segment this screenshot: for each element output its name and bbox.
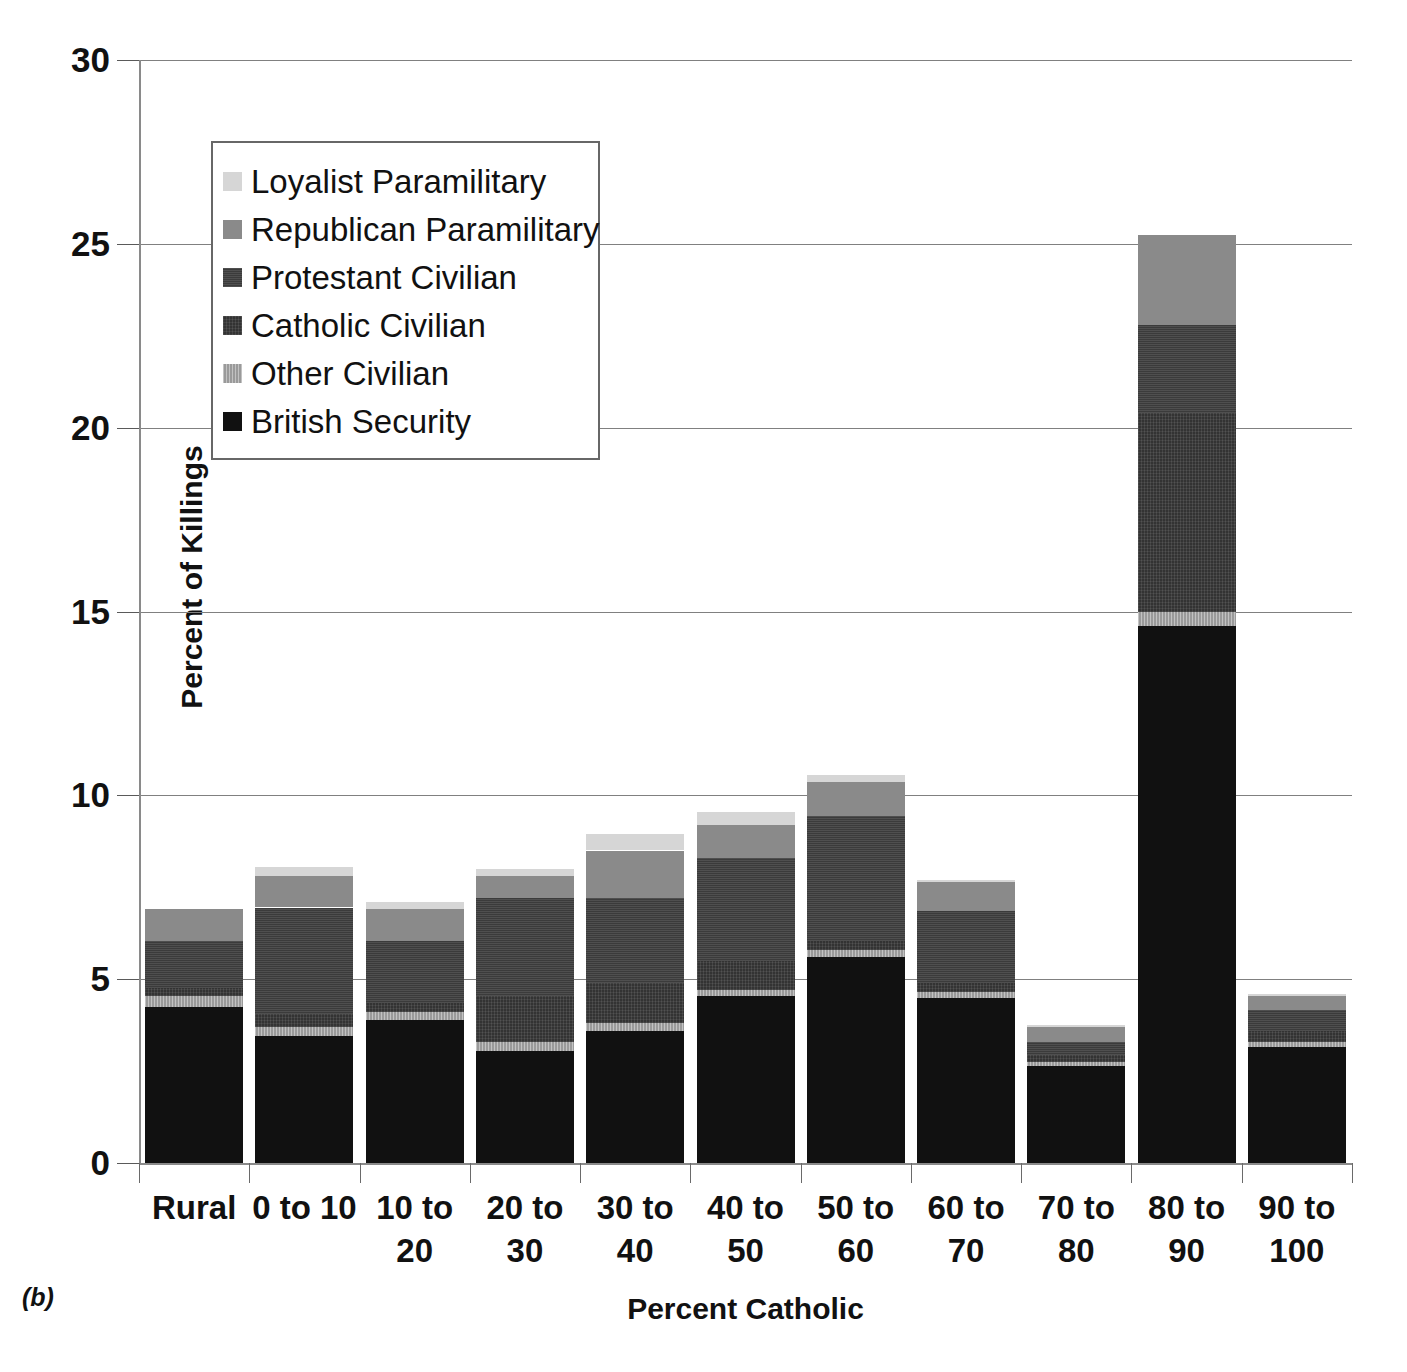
bar-segment[interactable] <box>807 775 905 782</box>
british-swatch <box>223 412 242 431</box>
bar-segment[interactable] <box>917 882 1015 911</box>
x-tick <box>360 1163 361 1183</box>
bar-segment[interactable] <box>366 902 464 909</box>
bar-segment[interactable] <box>1027 1066 1125 1163</box>
bar-segment[interactable] <box>145 988 243 995</box>
bar-segment[interactable] <box>476 1042 574 1051</box>
bar-segment[interactable] <box>1138 235 1236 325</box>
bar-segment[interactable] <box>1248 1031 1346 1042</box>
bar-segment[interactable] <box>1027 1042 1125 1055</box>
x-axis-line <box>139 1163 1352 1165</box>
y-tick-15 <box>117 612 139 613</box>
y-tick-label-10: 10 <box>71 775 110 815</box>
bar-segment[interactable] <box>586 851 684 899</box>
bar-segment[interactable] <box>476 876 574 898</box>
bar-segment[interactable] <box>145 941 243 989</box>
bar-segment[interactable] <box>1027 1027 1125 1042</box>
x-tick-label: 90 to100 <box>1233 1186 1361 1272</box>
bar-segment[interactable] <box>476 898 574 995</box>
bar-segment[interactable] <box>917 992 1015 998</box>
legend-label: Catholic Civilian <box>251 309 486 342</box>
y-tick-10 <box>117 795 139 796</box>
y-tick-0 <box>117 1163 139 1164</box>
x-tick-label: Rural <box>130 1186 258 1229</box>
bar-segment[interactable] <box>1138 413 1236 612</box>
bar-segment[interactable] <box>917 911 1015 983</box>
bar-group <box>586 60 684 1163</box>
bar-segment[interactable] <box>1027 1062 1125 1066</box>
legend-label: British Security <box>251 405 471 438</box>
x-tick-label: 20 to30 <box>461 1186 589 1272</box>
loyalist-swatch <box>223 172 242 191</box>
bar-segment[interactable] <box>476 996 574 1042</box>
bar-segment[interactable] <box>1248 1047 1346 1163</box>
bar-segment[interactable] <box>145 996 243 1007</box>
bar-segment[interactable] <box>697 858 795 961</box>
legend-item-0[interactable]: Loyalist Paramilitary <box>223 157 598 205</box>
bar-group <box>917 60 1015 1163</box>
bar-segment[interactable] <box>255 908 353 1015</box>
bar-segment[interactable] <box>476 1051 574 1163</box>
bar-segment[interactable] <box>586 983 684 1023</box>
bar-segment[interactable] <box>255 1036 353 1163</box>
bar-group <box>1027 60 1125 1163</box>
bar-segment[interactable] <box>697 812 795 825</box>
bar-segment[interactable] <box>366 1012 464 1019</box>
bar-segment[interactable] <box>1138 325 1236 413</box>
legend-item-2[interactable]: Protestant Civilian <box>223 253 598 301</box>
legend-item-5[interactable]: British Security <box>223 397 598 445</box>
bar-segment[interactable] <box>366 1020 464 1163</box>
bar-segment[interactable] <box>917 983 1015 992</box>
y-axis-labels: 051015202530 <box>0 0 110 1372</box>
bar-segment[interactable] <box>807 782 905 815</box>
x-tick-label: 10 to20 <box>351 1186 479 1272</box>
bar-segment[interactable] <box>697 825 795 858</box>
bar-segment[interactable] <box>697 990 795 996</box>
bar-segment[interactable] <box>807 816 905 941</box>
bar-segment[interactable] <box>255 1027 353 1036</box>
bar-segment[interactable] <box>1138 612 1236 627</box>
bar-segment[interactable] <box>807 957 905 1163</box>
bar-segment[interactable] <box>586 834 684 851</box>
y-tick-label-0: 0 <box>91 1143 110 1183</box>
y-tick-label-20: 20 <box>71 408 110 448</box>
bar-segment[interactable] <box>917 998 1015 1163</box>
legend-item-1[interactable]: Republican Paramilitary <box>223 205 598 253</box>
bar-segment[interactable] <box>1248 1042 1346 1048</box>
bar-segment[interactable] <box>145 909 243 940</box>
bar-segment[interactable] <box>366 909 464 940</box>
bar-segment[interactable] <box>1248 996 1346 1011</box>
bar-segment[interactable] <box>145 1007 243 1163</box>
bar-segment[interactable] <box>255 1014 353 1027</box>
y-tick-30 <box>117 60 139 61</box>
bar-segment[interactable] <box>917 880 1015 882</box>
bar-segment[interactable] <box>476 869 574 876</box>
bar-segment[interactable] <box>1027 1055 1125 1062</box>
bar-segment[interactable] <box>366 1003 464 1012</box>
bar-group <box>1248 60 1346 1163</box>
x-tick <box>690 1163 691 1183</box>
bar-group <box>697 60 795 1163</box>
bar-segment[interactable] <box>1027 1025 1125 1027</box>
bar-segment[interactable] <box>366 941 464 1004</box>
bar-segment[interactable] <box>1248 1010 1346 1030</box>
bar-segment[interactable] <box>255 876 353 907</box>
x-tick-label: 60 to70 <box>902 1186 1030 1272</box>
x-axis-title: Percent Catholic <box>139 1292 1352 1326</box>
bar-segment[interactable] <box>255 867 353 876</box>
legend-label: Loyalist Paramilitary <box>251 165 546 198</box>
bar-segment[interactable] <box>807 941 905 950</box>
legend-item-3[interactable]: Catholic Civilian <box>223 301 598 349</box>
bar-segment[interactable] <box>1138 626 1236 1163</box>
bar-segment[interactable] <box>586 1031 684 1163</box>
bar-segment[interactable] <box>697 961 795 990</box>
bar-segment[interactable] <box>586 898 684 983</box>
bar-segment[interactable] <box>697 996 795 1163</box>
bar-group <box>1138 60 1236 1163</box>
protestant-swatch <box>223 268 242 287</box>
legend-item-4[interactable]: Other Civilian <box>223 349 598 397</box>
x-tick-label: 30 to40 <box>571 1186 699 1272</box>
bar-segment[interactable] <box>586 1023 684 1030</box>
bar-segment[interactable] <box>1248 994 1346 996</box>
bar-segment[interactable] <box>807 950 905 957</box>
